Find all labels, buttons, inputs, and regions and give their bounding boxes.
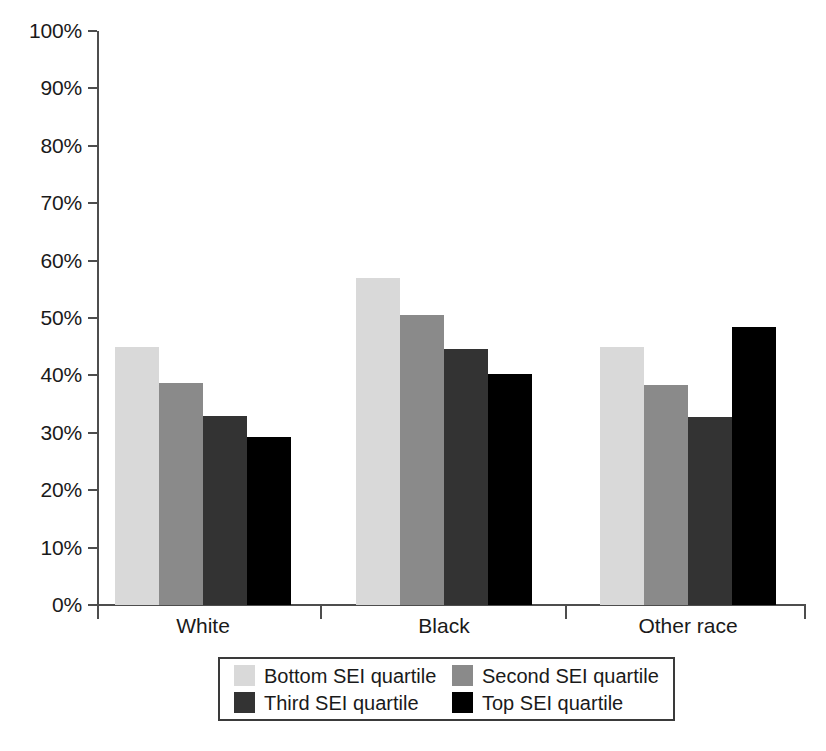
y-axis-tick-label: 90%: [0, 77, 82, 98]
legend-item: Bottom SEI quartile: [234, 665, 452, 687]
y-axis-tick: [88, 30, 97, 32]
legend-label: Third SEI quartile: [264, 692, 419, 714]
y-axis-tick: [88, 432, 97, 434]
y-axis-tick: [88, 87, 97, 89]
bar: [644, 385, 688, 605]
y-axis-tick-label: 0%: [0, 594, 82, 615]
y-axis-tick-label: 20%: [0, 479, 82, 500]
legend-item: Top SEI quartile: [452, 692, 673, 714]
bar: [688, 417, 732, 605]
bar: [356, 278, 400, 605]
x-axis-left-cap: [97, 606, 99, 619]
y-axis-tick-label: 60%: [0, 250, 82, 271]
y-axis-tick: [88, 374, 97, 376]
y-axis-tick-label: 70%: [0, 192, 82, 213]
legend-swatch: [452, 692, 473, 713]
x-axis-separator: [320, 606, 322, 619]
y-axis-tick-label: 10%: [0, 537, 82, 558]
y-axis-tick: [88, 547, 97, 549]
bar: [203, 416, 247, 605]
legend-swatch: [234, 692, 255, 713]
y-axis-tick: [88, 145, 97, 147]
bar: [444, 349, 488, 605]
bar: [115, 347, 159, 605]
legend: Bottom SEI quartileSecond SEI quartileTh…: [218, 657, 675, 721]
bar: [488, 374, 532, 605]
bar-chart: 0%10%20%30%40%50%60%70%80%90%100% WhiteB…: [0, 0, 826, 751]
bar: [247, 437, 291, 605]
legend-swatch: [234, 665, 255, 686]
legend-item: Third SEI quartile: [234, 692, 452, 714]
legend-item: Second SEI quartile: [452, 665, 673, 687]
x-axis-category-label: White: [103, 614, 303, 638]
y-axis-tick: [88, 604, 97, 606]
y-axis-tick: [88, 260, 97, 262]
y-axis-tick-label: 80%: [0, 135, 82, 156]
legend-label: Second SEI quartile: [482, 665, 659, 687]
y-axis-tick: [88, 489, 97, 491]
plot-area: [98, 31, 806, 605]
x-axis-category-label: Other race: [588, 614, 788, 638]
y-axis-tick-label: 50%: [0, 307, 82, 328]
y-axis-tick-label: 40%: [0, 364, 82, 385]
y-axis-tick-label: 100%: [0, 20, 82, 41]
x-axis-separator: [565, 606, 567, 619]
x-axis-right-cap: [804, 606, 806, 619]
legend-swatch: [452, 665, 473, 686]
bar: [159, 383, 203, 605]
y-axis-tick: [88, 317, 97, 319]
bar: [400, 315, 444, 605]
x-axis-category-label: Black: [344, 614, 544, 638]
legend-label: Top SEI quartile: [482, 692, 623, 714]
bar: [732, 327, 776, 605]
y-axis-tick: [88, 202, 97, 204]
y-axis-tick-label: 30%: [0, 422, 82, 443]
legend-label: Bottom SEI quartile: [264, 665, 436, 687]
bar: [600, 347, 644, 605]
